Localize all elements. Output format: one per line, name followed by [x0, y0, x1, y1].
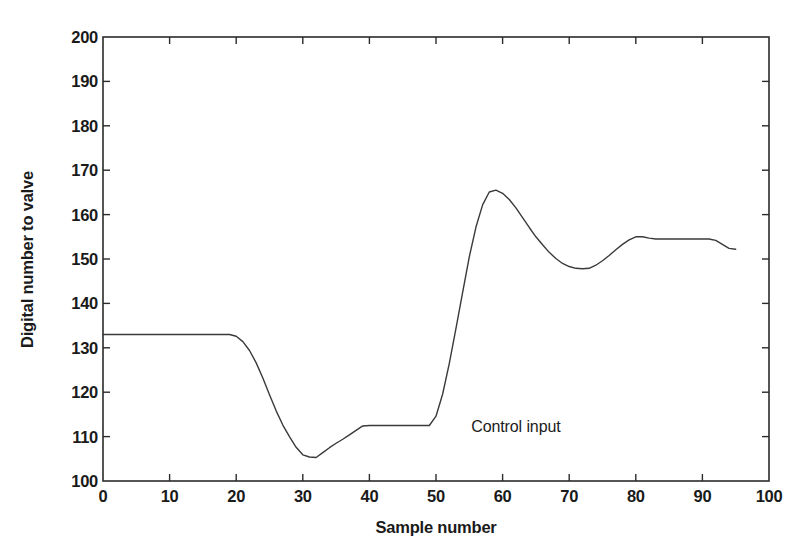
- x-tick-label: 50: [406, 487, 466, 506]
- x-tick-label: 10: [140, 487, 200, 506]
- x-tick-label: 100: [739, 487, 799, 506]
- x-tick-label: 0: [73, 487, 133, 506]
- x-tick-label: 30: [273, 487, 333, 506]
- annotation-control-input: Control input: [471, 418, 560, 436]
- x-tick-label: 40: [339, 487, 399, 506]
- x-tick-label: 80: [606, 487, 666, 506]
- y-axis-title: Digital number to valve: [14, 38, 40, 481]
- x-tick-label: 60: [473, 487, 533, 506]
- x-tick-label: 70: [539, 487, 599, 506]
- x-tick-label: 20: [206, 487, 266, 506]
- x-axis-title: Sample number: [103, 518, 769, 537]
- x-tick-label: 90: [672, 487, 732, 506]
- x-axis-tick-labels: 0102030405060708090100: [0, 0, 809, 559]
- chart-figure: 200190180170160150140130120110100 010203…: [0, 0, 809, 559]
